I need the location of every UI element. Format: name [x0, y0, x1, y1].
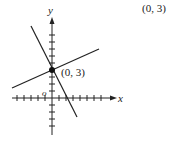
x-axis-arrow-icon [110, 96, 117, 101]
answer-text: (0, 3) [142, 2, 166, 15]
origin-label: o [42, 88, 47, 98]
point-label: (0, 3) [61, 66, 85, 79]
shallow-line [12, 49, 99, 88]
intersection-point [49, 67, 55, 73]
coordinate-graph: y x o (0, 3) (0, 3) [0, 0, 170, 146]
y-axis-arrow-icon [50, 17, 55, 24]
y-axis-label: y [47, 4, 53, 16]
x-axis-label: x [117, 92, 123, 104]
